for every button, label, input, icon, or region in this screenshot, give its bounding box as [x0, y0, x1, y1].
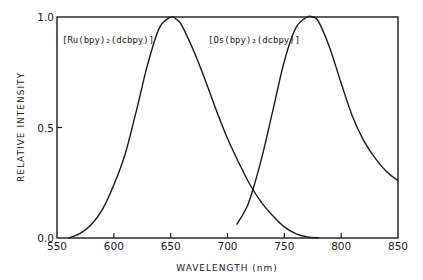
plot-frame	[57, 17, 398, 238]
x-axis-title: WAVELENGTH (nm)	[176, 263, 278, 273]
x-tick-label: 800	[331, 240, 351, 252]
x-tick-label: 850	[388, 240, 408, 252]
y-tick-label: 0.0	[37, 232, 54, 244]
os-spectrum-curve	[237, 16, 398, 225]
x-tick-label: 750	[274, 240, 294, 252]
y-tick-label: 0.5	[37, 122, 54, 134]
y-tick-label: 1.0	[37, 11, 54, 23]
ru-series-label: [Ru(bpy)₂(dcbpy)]	[62, 35, 154, 45]
spectrum-curves	[68, 16, 398, 238]
x-tick-label: 600	[104, 240, 124, 252]
x-tick-label: 700	[217, 240, 237, 252]
x-tick-label: 650	[161, 240, 181, 252]
emission-spectra-chart: 5506006507007508008500.00.51.0 [Ru(bpy)₂…	[0, 0, 423, 280]
os-series-label: [Os(bpy)₂(dcbpy)]	[208, 35, 300, 45]
plot-axes	[57, 17, 398, 238]
ru-spectrum-curve	[68, 16, 318, 238]
axis-ticks: 5506006507007508008500.00.51.0	[37, 11, 408, 252]
y-axis-title: RELATIVE INTENSITY	[16, 72, 26, 182]
